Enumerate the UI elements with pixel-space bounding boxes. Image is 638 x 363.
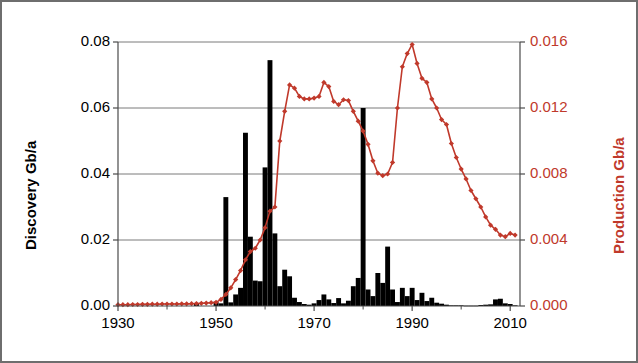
bar: [346, 301, 351, 306]
data-point-marker: [375, 171, 380, 176]
data-point-marker: [302, 96, 307, 101]
bar: [238, 288, 243, 306]
bar: [390, 290, 395, 307]
bar: [282, 270, 287, 306]
x-axis-tick-label: 1990: [384, 314, 440, 331]
data-point-marker: [351, 109, 356, 114]
x-axis-tick-label: 2010: [482, 314, 538, 331]
data-point-marker: [199, 301, 204, 306]
bar: [366, 290, 371, 307]
x-axis-tick-label: 1950: [188, 314, 244, 331]
bar: [258, 281, 263, 306]
data-point-marker: [400, 64, 405, 69]
data-point-marker: [459, 166, 464, 171]
bar: [223, 197, 228, 306]
bar: [493, 299, 498, 306]
bar: [498, 299, 503, 306]
production-line: [118, 44, 515, 304]
left-axis-title: Discovery Gb/a: [22, 141, 39, 250]
bar: [253, 281, 258, 306]
bar: [287, 276, 292, 306]
bar: [356, 278, 361, 306]
y-axis-tick-label-left: 0.06: [56, 98, 110, 115]
y-axis-tick-label-left: 0.04: [56, 164, 110, 181]
y-axis-tick-label-right: 0.004: [530, 230, 568, 247]
data-point-marker: [277, 138, 282, 143]
data-point-marker: [346, 98, 351, 103]
data-point-marker: [449, 141, 454, 146]
data-point-marker: [307, 96, 312, 101]
bar: [375, 273, 380, 306]
bar: [351, 286, 356, 306]
data-point-marker: [204, 300, 209, 305]
bar: [429, 298, 434, 306]
chart-figure: Discovery Gb/a Production Gb/a 0.000.020…: [0, 0, 638, 363]
data-point-marker: [282, 109, 287, 114]
data-point-marker: [209, 300, 214, 305]
bar: [321, 294, 326, 306]
data-point-marker: [370, 158, 375, 163]
bar: [326, 299, 331, 306]
bar: [370, 296, 375, 306]
y-axis-tick-label-right: 0.008: [530, 164, 568, 181]
data-point-marker: [390, 160, 395, 165]
data-point-marker: [454, 155, 459, 160]
y-axis-tick-label-right: 0.000: [530, 296, 568, 313]
y-axis-tick-label-left: 0.02: [56, 230, 110, 247]
x-axis-tick-label: 1970: [286, 314, 342, 331]
bar: [400, 288, 405, 306]
x-axis-tick-label: 1930: [90, 314, 146, 331]
right-axis-title: Production Gb/a: [610, 137, 627, 254]
y-axis-tick-label-right: 0.012: [530, 98, 568, 115]
bar: [415, 300, 420, 306]
bar: [424, 301, 429, 306]
data-point-marker: [356, 119, 361, 124]
data-point-marker: [316, 94, 321, 99]
bar: [272, 233, 277, 306]
data-point-marker: [365, 142, 370, 147]
discovery-bar-series: [194, 60, 518, 306]
y-axis-tick-label-left: 0.08: [56, 32, 110, 49]
bar: [380, 283, 385, 306]
bar: [268, 60, 273, 306]
bar: [277, 286, 282, 306]
data-point-marker: [385, 171, 390, 176]
bar: [248, 237, 253, 306]
bar: [385, 247, 390, 306]
bar: [243, 133, 248, 306]
data-point-marker: [513, 232, 518, 237]
bar: [317, 300, 322, 306]
data-point-marker: [463, 176, 468, 181]
y-axis-tick-label-left: 0.00: [56, 296, 110, 313]
data-point-marker: [312, 96, 317, 101]
bar: [233, 294, 238, 306]
data-point-marker: [395, 105, 400, 110]
bar: [405, 296, 410, 306]
data-point-marker: [414, 61, 419, 66]
bar: [336, 298, 341, 306]
bar: [410, 288, 415, 306]
bar: [292, 298, 297, 306]
bar: [263, 167, 268, 306]
production-marker-group: [115, 42, 517, 307]
y-axis-tick-label-right: 0.016: [530, 32, 568, 49]
bar: [420, 293, 425, 306]
